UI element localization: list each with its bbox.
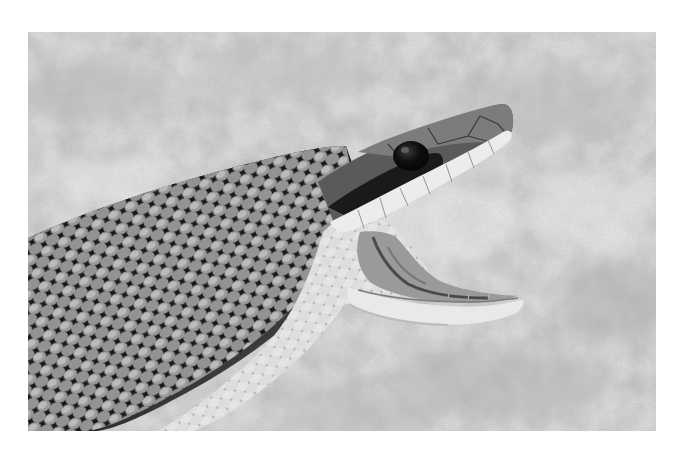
snake-eye	[393, 141, 429, 171]
snake-illustration	[28, 32, 656, 431]
snake-photo: Snake with mouth wide open	[28, 32, 656, 431]
